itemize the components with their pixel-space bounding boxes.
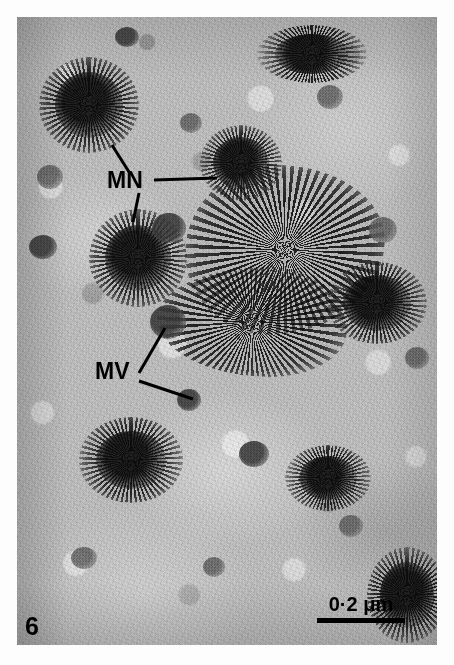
figure-page: MN MV 6 0·2 μm — [0, 0, 454, 665]
figure-number: 6 — [25, 614, 39, 639]
annotation-label-mn: MN — [107, 169, 143, 192]
electron-micrograph-plate: MN MV 6 0·2 μm — [17, 17, 437, 645]
micrograph-grain-fine-secondary — [17, 17, 437, 645]
annotation-label-mv: MV — [95, 360, 130, 383]
scale-bar-label: 0·2 μm — [315, 594, 407, 614]
scale-bar: 0·2 μm — [315, 594, 407, 623]
scale-bar-line — [317, 618, 405, 623]
